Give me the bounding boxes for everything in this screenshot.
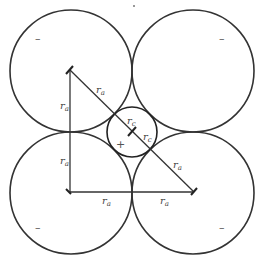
sign-top-right: – bbox=[219, 32, 225, 45]
label-rc-lower: rc bbox=[143, 131, 152, 144]
label-ra-horizontal-left: ra bbox=[102, 195, 111, 208]
label-ra-diagonal-bottom: ra bbox=[173, 159, 182, 172]
circle-packing-diagram: – – – – + ra ra ra ra ra ra rc rc bbox=[0, 0, 264, 264]
sign-center: + bbox=[116, 138, 125, 151]
artifact-dot bbox=[133, 5, 135, 7]
label-ra-vertical-top: ra bbox=[60, 100, 69, 113]
sign-bottom-left: – bbox=[35, 221, 41, 234]
label-ra-horizontal-right: ra bbox=[160, 195, 169, 208]
sign-bottom-right: – bbox=[219, 221, 225, 234]
large-circle-top-right bbox=[132, 10, 254, 132]
label-ra-vertical-bottom: ra bbox=[60, 155, 69, 168]
label-ra-diagonal-top: ra bbox=[96, 84, 105, 97]
sign-top-left: – bbox=[35, 32, 41, 45]
label-rc-upper: rc bbox=[127, 115, 136, 128]
